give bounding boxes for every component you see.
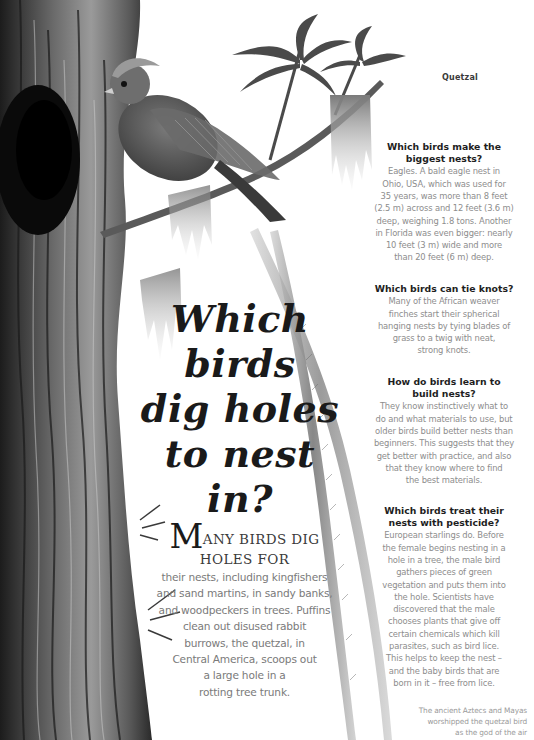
qa-answer-line: do and what materials to use, but — [368, 413, 520, 425]
qa-answer-line: They know instinctively what to — [368, 400, 520, 412]
title-line: to nest — [140, 431, 340, 476]
qa-answer-line: hole in a tree, the male bird — [368, 554, 520, 566]
qa-answer-line: 35 years, was more than 8 feet — [368, 190, 520, 202]
qa-answer-line: European starlings do. Before — [368, 529, 520, 541]
qa-pesticide: Which birds treat their nests with pesti… — [368, 505, 520, 689]
intro-lead-line: MANY BIRDS DIG — [152, 522, 337, 552]
title-line: Which — [140, 296, 340, 341]
title-line: in? — [140, 476, 340, 521]
qa-answer-line: than 20 feet (6 m) deep. — [368, 251, 520, 263]
qa-answer-line: the best materials. — [368, 474, 520, 486]
qa-answer-line: Many of the African weaver — [368, 295, 520, 307]
qa-answer-line: grass to a twig with neat, — [368, 332, 520, 344]
intro-body-line: Central America, scoops out — [152, 651, 337, 667]
qa-biggest-nests: Which birds make the biggest nests? Eagl… — [368, 141, 520, 264]
intro-lead-text: ANY BIRDS DIG — [203, 531, 320, 547]
page-title: Which birds dig holes to nest in? — [140, 296, 340, 521]
qa-question: Which birds make the biggest nests? — [368, 141, 520, 165]
title-line: dig holes — [140, 386, 340, 431]
qa-question-line: nests with pesticide? — [368, 517, 520, 529]
caption-line: The ancient Aztecs and Mayas — [395, 705, 527, 716]
qa-answer-line: older birds build better nests than — [368, 425, 520, 437]
qa-question-line: Which birds treat their — [368, 505, 520, 517]
qa-answer-line: deep, weighing 1.8 tons. Another — [368, 215, 520, 227]
qa-question-line: Which birds make the — [368, 141, 520, 153]
intro-paragraph: MANY BIRDS DIG HOLES FOR their nests, in… — [152, 522, 337, 700]
qa-answer-line: (2.5 m) across and 12 feet (3.6 m) — [368, 202, 520, 214]
intro-body-line: a large hole in a — [152, 667, 337, 683]
qa-answer-line: 10 feet (3 m) wide and more — [368, 239, 520, 251]
qa-answer-line: Ohio, USA, which was used for — [368, 178, 520, 190]
qa-answer-line: get better with practice, and also — [368, 450, 520, 462]
intro-body-line: and woodpeckers in trees. Puffins — [152, 602, 337, 618]
qa-question: Which birds treat their nests with pesti… — [368, 505, 520, 529]
qa-question: How do birds learn to build nests? — [368, 376, 520, 400]
qa-answer-line: certain chemicals which kill — [368, 628, 520, 640]
qa-answer: They know instinctively what to do and w… — [368, 400, 520, 486]
qa-answer: Many of the African weaver finches start… — [368, 295, 520, 356]
qa-answer-line: vegetation and puts them into — [368, 579, 520, 591]
drop-cap: M — [170, 517, 204, 556]
qa-answer: Eagles. A bald eagle nest in Ohio, USA, … — [368, 165, 520, 263]
qa-answer-line: parasites, such as bird lice. — [368, 640, 520, 652]
qa-question-line: How do birds learn to — [368, 376, 520, 388]
qa-tie-knots: Which birds can tie knots? Many of the A… — [368, 283, 520, 357]
qa-answer-line: that they know where to find — [368, 462, 520, 474]
qa-answer-line: the hole. Scientists have — [368, 591, 520, 603]
qa-question-line: build nests? — [368, 388, 520, 400]
quetzal-caption: Quetzal — [420, 73, 500, 82]
qa-answer-line: born in it – free from lice. — [368, 677, 520, 689]
qa-answer-line: gathers pieces of green — [368, 566, 520, 578]
intro-body-line: burrows, the quetzal, in — [152, 635, 337, 651]
qa-answer-line: finches start their spherical — [368, 308, 520, 320]
qa-answer: European starlings do. Before the female… — [368, 529, 520, 689]
qa-question: Which birds can tie knots? — [368, 283, 520, 295]
caption-line: worshipped the quetzal bird — [395, 716, 527, 727]
qa-answer-line: hanging nests by tying blades of — [368, 320, 520, 332]
intro-body: their nests, including kingfishers and s… — [152, 569, 337, 700]
qa-answer-line: discovered that the male — [368, 603, 520, 615]
qa-answer-line: strong knots. — [368, 344, 520, 356]
qa-answer-line: the female begins nesting in a — [368, 542, 520, 554]
book-page: Quetzal Which birds dig holes to nest in… — [0, 0, 534, 740]
intro-lead: MANY BIRDS DIG HOLES FOR — [152, 522, 337, 567]
caption-line: as the god of the air — [395, 727, 527, 738]
intro-body-line: their nests, including kingfishers — [152, 569, 337, 585]
qa-question-line: Which birds can tie knots? — [368, 283, 520, 295]
qa-answer-line: Eagles. A bald eagle nest in — [368, 165, 520, 177]
intro-body-line: clean out disused rabbit — [152, 618, 337, 634]
qa-learn-to-build: How do birds learn to build nests? They … — [368, 376, 520, 486]
intro-body-line: and sand martins, in sandy banks, — [152, 585, 337, 601]
qa-answer-line: chooses plants that give off — [368, 615, 520, 627]
intro-body-line: rotting tree trunk. — [152, 684, 337, 700]
title-line: birds — [140, 341, 340, 386]
aztec-caption: The ancient Aztecs and Mayas worshipped … — [395, 705, 527, 738]
qa-answer-line: in Florida was even bigger: nearly — [368, 227, 520, 239]
qa-answer-line: beginners. This suggests that they — [368, 437, 520, 449]
qa-question-line: biggest nests? — [368, 153, 520, 165]
qa-answer-line: This helps to keep the nest – — [368, 652, 520, 664]
qa-answer-line: and the baby birds that are — [368, 665, 520, 677]
